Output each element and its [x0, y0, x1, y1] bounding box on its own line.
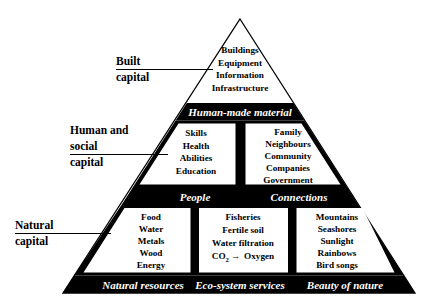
- side-label-line: social: [70, 140, 97, 152]
- band-label-beauty-of-nature: Beauty of nature: [306, 279, 384, 291]
- side-label-line: Human and: [70, 124, 129, 136]
- side-label-line: capital: [15, 235, 48, 248]
- eco-system-item: Fisheries: [225, 212, 261, 222]
- eco-system-item: Fertile soil: [222, 225, 264, 235]
- formula-product: Oxygen: [244, 251, 274, 261]
- built-capital-item: Buildings: [221, 45, 259, 55]
- natural-resources-item: Wood: [140, 248, 163, 258]
- side-label-line: capital: [116, 71, 149, 84]
- natural-resources-item: Food: [141, 212, 161, 222]
- band-label-natural-resources: Natural resources: [101, 279, 184, 291]
- natural-resources-item: Water: [139, 224, 164, 234]
- beauty-item: Rainbows: [318, 248, 357, 258]
- beauty-item: Mountains: [316, 212, 359, 222]
- capital-pyramid-svg: Human-made material People Connections N…: [0, 0, 425, 303]
- formula-arrow: →: [231, 251, 240, 261]
- side-label-line: Natural: [15, 219, 53, 231]
- connections-item: Family: [274, 127, 302, 137]
- eco-system-item: Water filtration: [212, 238, 274, 248]
- side-label-line: Built: [116, 55, 140, 67]
- connections-item: Neighbours: [265, 139, 311, 149]
- built-capital-item: Information: [216, 70, 264, 80]
- beauty-item: Seashores: [318, 224, 357, 234]
- connections-item: Community: [265, 151, 312, 161]
- connections-item: Companies: [266, 163, 310, 173]
- built-capital-item: Equipment: [218, 58, 263, 68]
- band-label-eco-system-services: Eco-system services: [194, 279, 285, 291]
- formula-prefix: CO: [212, 251, 226, 261]
- people-item: Education: [176, 166, 216, 176]
- pyramid-diagram-canvas: Human-made material People Connections N…: [0, 0, 425, 303]
- beauty-item: Bird songs: [316, 260, 358, 270]
- beauty-item: Sunlight: [320, 236, 354, 246]
- people-item: Abilities: [180, 153, 213, 163]
- band-label-connections: Connections: [271, 191, 328, 203]
- people-item: Health: [183, 141, 210, 151]
- beauty-of-nature-items: Mountains Seashores Sunlight Rainbows Bi…: [316, 212, 359, 270]
- side-label-line: capital: [70, 156, 103, 169]
- band-label-people: People: [180, 191, 211, 203]
- people-item: Skills: [185, 128, 207, 138]
- built-capital-item: Infrastructure: [212, 83, 268, 93]
- side-label-built-capital: Built capital: [116, 55, 213, 84]
- natural-resources-item: Metals: [138, 236, 165, 246]
- natural-resources-item: Energy: [137, 260, 166, 270]
- connections-item: Government: [263, 175, 313, 185]
- band-label-human-made-material: Human-made material: [187, 106, 293, 118]
